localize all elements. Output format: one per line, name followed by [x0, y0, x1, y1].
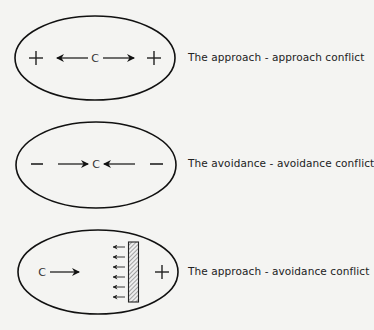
caption-approach-avoidance: The approach - avoidance conflict: [188, 265, 369, 277]
barrier: [129, 242, 139, 302]
caption-avoidance-avoidance: The avoidance - avoidance conflict: [188, 157, 374, 169]
person-label: C: [38, 266, 46, 279]
panel-approach-approach: C: [15, 16, 175, 100]
person-label: C: [92, 158, 100, 171]
person-label: C: [91, 52, 99, 65]
plus-icon-left: [29, 51, 43, 65]
repel-arrows: [113, 247, 125, 297]
plus-icon-right: [147, 51, 161, 65]
panel-approach-avoidance: C: [18, 230, 178, 314]
plus-icon-right: [155, 265, 169, 279]
panel-avoidance-avoidance: C: [16, 122, 176, 208]
caption-approach-approach: The approach - approach conflict: [188, 51, 364, 63]
